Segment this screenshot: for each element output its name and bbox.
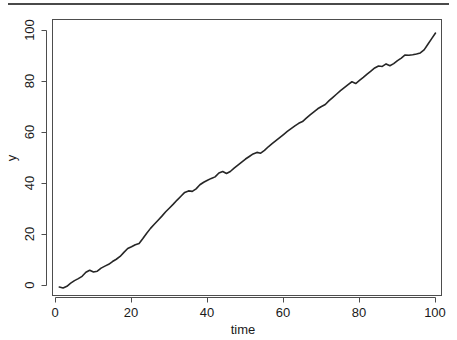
y-tick-label-40: 40 [22,176,37,190]
y-tick-label-100: 100 [22,19,37,41]
y-axis: 0 20 40 60 80 100 [22,19,47,288]
x-tick-label-0: 0 [51,305,58,320]
line-chart-plot: 0 20 40 60 80 100 0 20 40 60 80 100 time… [0,0,457,340]
y-tick-label-60: 60 [22,125,37,139]
y-tick-label-0: 0 [22,281,37,288]
y-axis-title: y [4,154,19,161]
series-line-y [59,33,435,288]
x-tick-label-40: 40 [200,305,214,320]
y-tick-label-20: 20 [22,227,37,241]
x-axis: 0 20 40 60 80 100 [51,298,445,321]
figure-canvas: 0 20 40 60 80 100 0 20 40 60 80 100 time… [0,0,457,340]
x-tick-label-20: 20 [124,305,138,320]
x-tick-label-100: 100 [424,305,446,320]
x-tick-label-80: 80 [352,305,366,320]
x-axis-title: time [231,322,256,337]
y-tick-label-80: 80 [22,74,37,88]
x-tick-label-60: 60 [276,305,290,320]
